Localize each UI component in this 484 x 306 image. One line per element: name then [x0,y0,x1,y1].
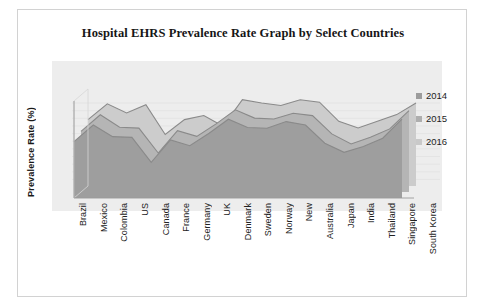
x-axis-tick: India [366,203,376,223]
x-axis-tick: Sweden [263,203,273,236]
x-axis-tick: Thailand [387,203,397,238]
x-axis-tick: US [140,203,150,216]
x-axis-tick: Mexico [99,203,109,232]
x-axis-tick: Norway [284,203,294,234]
y-axis-title: Prevalence Rate (%) [26,97,40,207]
legend-label: 2015 [426,113,447,124]
plot-region: Prevalence Rate (%) 100806040200 BrazilM… [30,57,454,285]
legend-item-2014[interactable]: 2014 [416,84,464,107]
legend-label: 2014 [426,90,447,101]
legend-item-2016[interactable]: 2016 [416,130,464,153]
x-axis-tick: France [181,203,191,232]
area-series-svg [72,61,440,211]
screenshot-root: Hospital EHRS Prevalence Rate Graph by S… [0,0,484,306]
plot-area [52,61,442,211]
x-axis-tick: Denmark [243,203,253,240]
chart-title: Hospital EHRS Prevalence Rate Graph by S… [18,26,468,41]
x-axis-tick: Singapore [407,203,417,245]
legend-label: 2016 [426,136,447,147]
chart-legend: 201420152016 [416,84,464,154]
legend-swatch-icon [416,116,422,122]
legend-swatch-icon [416,93,422,99]
x-axis-tick: Germany [202,203,212,241]
x-axis-tick: UK [222,203,232,216]
series-canvas [72,61,440,211]
x-axis-tick: Colombia [119,203,129,242]
x-axis-tick-labels: BrazilMexicoColombiaUSCanadaFranceGerman… [72,203,442,285]
x-axis-tick: New [304,203,314,221]
x-axis-tick: Brazil [78,203,88,226]
x-axis-tick: South Korea [428,203,438,254]
legend-item-2015[interactable]: 2015 [416,107,464,130]
chart-card: Hospital EHRS Prevalence Rate Graph by S… [17,9,467,297]
x-axis-tick: Japan [346,203,356,228]
x-axis-tick: Australia [325,203,335,239]
legend-swatch-icon [416,139,422,145]
x-axis-tick: Canada [161,203,171,235]
